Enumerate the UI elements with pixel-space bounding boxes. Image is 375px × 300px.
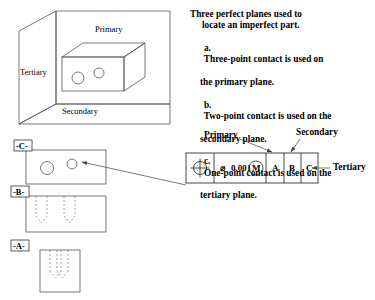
- callout-primary: Primary: [204, 130, 238, 140]
- datum-symbol-b-label: -B-: [13, 187, 24, 197]
- note-block: Three perfect planes used to locate an i…: [190, 9, 370, 202]
- technical-drawing-page: Primary Tertiary Secondary Three perfect…: [0, 0, 375, 300]
- top-view-hole-2: [67, 159, 77, 169]
- part-hole-1: [72, 72, 84, 84]
- note-item-c-line-2: tertiary plane.: [190, 190, 370, 201]
- front-view-hidden-holes: [36, 196, 75, 223]
- side-view-geometry: [40, 250, 80, 292]
- fcf-leader-line: [82, 162, 186, 185]
- front-view-outline: [26, 196, 106, 232]
- imperfect-part-block: [62, 43, 145, 91]
- note-item-a-marker: a.: [204, 43, 211, 53]
- note-item-b-line-1: b. Two-point contact is used on the: [190, 88, 370, 133]
- note-heading-line-1: Three perfect planes used to: [190, 9, 370, 20]
- note-item-b-text-1: Two-point contact is used on the: [204, 111, 332, 121]
- side-view-hidden-holes: [50, 250, 68, 278]
- top-view-geometry: [26, 150, 106, 184]
- note-item-a-text-1: Three-point contact is used on: [204, 54, 324, 64]
- iso-label-tertiary: Tertiary: [20, 68, 47, 78]
- part-hole-2: [94, 68, 104, 78]
- fcf-tertiary-datum-letter: C: [306, 163, 313, 173]
- top-view-hole-1: [41, 162, 54, 175]
- front-view-geometry: [26, 196, 106, 232]
- callout-secondary: Secondary: [296, 127, 338, 137]
- fcf-material-modifier: M: [252, 163, 261, 173]
- fcf-diameter-symbol: ⌀: [220, 163, 225, 173]
- datum-symbol-c-label: -C-: [16, 141, 28, 151]
- fcf-primary-datum-letter: A: [272, 163, 279, 173]
- top-view-outline: [26, 150, 106, 184]
- datum-symbol-a-label: -A-: [13, 241, 25, 251]
- fcf-secondary-datum-letter: B: [289, 163, 295, 173]
- front-hole1-drill-point: [36, 216, 47, 223]
- part-top-face: [62, 43, 145, 57]
- part-front-face: [62, 57, 124, 91]
- datum-leader-lines: [20, 150, 23, 251]
- note-item-c-marker: c.: [204, 156, 210, 166]
- side-view-outline: [40, 250, 80, 292]
- fcf-leader: [82, 162, 186, 185]
- front-hole2-drill-point: [64, 216, 75, 223]
- note-item-b-marker: b.: [204, 100, 212, 110]
- note-heading-line-2: locate an imperfect part.: [190, 20, 370, 31]
- note-item-a-line-2: the primary plane.: [190, 77, 370, 88]
- iso-label-primary: Primary: [95, 25, 122, 35]
- part-right-face: [124, 43, 145, 91]
- fcf-tolerance-value: 0.001: [231, 163, 251, 173]
- callout-tertiary: Tertiary: [333, 162, 366, 172]
- note-item-a-line-1: a. Three-point contact is used on: [190, 32, 370, 77]
- iso-label-secondary: Secondary: [62, 107, 98, 117]
